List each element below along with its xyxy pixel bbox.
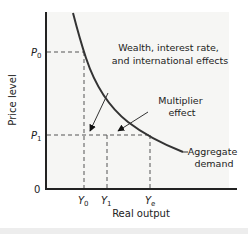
ad-label-line-2: demand bbox=[194, 158, 233, 169]
bottom-strip bbox=[0, 228, 248, 234]
x-tick-y0: Y0 bbox=[78, 195, 89, 208]
origin-label: 0 bbox=[34, 184, 40, 195]
multiplier-line-1: Multiplier bbox=[158, 95, 202, 106]
y-tick-p1: P1 bbox=[31, 130, 42, 143]
x-tick-ye: Ye bbox=[145, 195, 155, 208]
aggregate-demand-chart: Wealth, interest rate, and international… bbox=[0, 0, 248, 234]
wealth-effect-line-2: and international effects bbox=[112, 55, 229, 66]
x-axis-title: Real output bbox=[112, 208, 170, 219]
ad-label-line-1: Aggregate bbox=[188, 146, 238, 157]
y-tick-p0: P0 bbox=[31, 47, 42, 60]
wealth-effect-line-1: Wealth, interest rate, bbox=[118, 42, 219, 53]
aggregate-demand-label: Aggregate demand bbox=[188, 146, 241, 169]
multiplier-line-2: effect bbox=[168, 107, 195, 118]
y-axis-title: Price level bbox=[7, 74, 18, 125]
x-tick-y1: Y1 bbox=[101, 195, 112, 208]
